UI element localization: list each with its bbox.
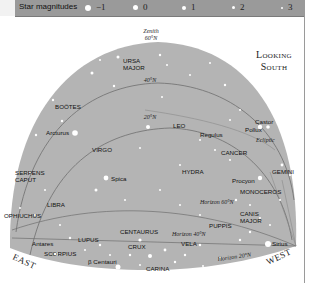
- constellation-ursa-major: URSA: [123, 57, 141, 64]
- legend-title: Star magnitudes: [19, 2, 77, 11]
- constellation-centaurus: CENTAURUS: [120, 228, 158, 235]
- star-arcturus: Arcturus: [46, 129, 69, 136]
- horizon-40-label: Horizon 40°N: [171, 231, 207, 237]
- legend-item-mag-2: 2: [232, 2, 245, 12]
- star-pollux: Pollux: [245, 126, 263, 133]
- constellation-vela: VELA: [181, 240, 198, 247]
- ecliptic-label: Ecliptic: [255, 137, 275, 143]
- constellation-canis-major-2: MAJOR: [240, 217, 262, 224]
- star-dot-icon: [133, 5, 138, 10]
- constellation-ophiuchus: OPHIUCHUS: [4, 212, 41, 219]
- legend-left-margin: [0, 0, 16, 16]
- horizon-60-label: Horizon 60°N: [199, 199, 235, 205]
- constellation-serpens-caput: SERPENS: [15, 169, 45, 176]
- constellation-monoceros: MONOCEROS: [240, 188, 281, 195]
- star-beta-centauri: β Centauri: [88, 258, 117, 265]
- legend-item-mag-minus1: −1: [85, 2, 106, 12]
- star-magnitude-legend: Star magnitudes −1 0 1 2 3: [15, 0, 305, 17]
- star-dot-icon: [85, 5, 91, 11]
- constellation-lupus: LUPUS: [78, 236, 99, 243]
- constellation-ursa-major-2: MAJOR: [123, 64, 145, 71]
- constellation-carina: CARINA: [146, 265, 170, 272]
- constellation-leo: LEO: [173, 122, 186, 129]
- constellation-cancer: CANCER: [221, 149, 248, 156]
- star-sirius: Sirius: [272, 240, 287, 247]
- constellation-crux: CRUX: [128, 243, 146, 250]
- constellation-canis-major: CANIS: [240, 210, 259, 217]
- constellation-hydra: HYDRA: [182, 168, 205, 175]
- star-procyon: Procyon: [232, 177, 255, 184]
- legend-item-mag-0: 0: [133, 2, 148, 12]
- constellation-virgo: VIRGO: [92, 146, 112, 153]
- zenith-lat-label: 60°N: [145, 35, 158, 41]
- star-dot-icon: [281, 7, 283, 9]
- lat-40-label: 40°N: [144, 77, 157, 83]
- constellation-bootes: BOÖTES: [55, 103, 81, 110]
- zenith-label: Zenith: [143, 28, 158, 34]
- star-spica: Spica: [111, 175, 127, 182]
- constellation-libra: LIBRA: [47, 201, 66, 208]
- star-antares: Antares: [32, 240, 53, 247]
- legend-item-mag-3: 3: [281, 2, 293, 12]
- constellation-scorpius: SCORPIUS: [44, 250, 76, 257]
- constellation-serpens-caput-2: CAPUT: [15, 176, 36, 183]
- constellation-gemini: GEMINI: [272, 168, 294, 175]
- star-regulus: Regulus: [200, 131, 223, 138]
- orientation-label: Looking South: [243, 49, 305, 73]
- legend-item-mag-1: 1: [182, 2, 196, 12]
- star-dot-icon: [232, 6, 235, 9]
- constellation-puppis: PUPPIS: [209, 222, 232, 229]
- lat-20-label: 20°N: [144, 114, 157, 120]
- star-castor: Castor: [255, 118, 273, 125]
- star-dot-icon: [182, 6, 186, 10]
